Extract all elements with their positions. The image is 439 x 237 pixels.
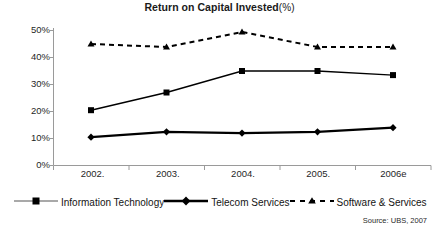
axis-lines: [54, 28, 432, 166]
x-axis-labels: 2002. 2003. 2004. 2005. 2006e: [55, 168, 431, 179]
x-axis-tick-label: 2005.: [281, 168, 356, 179]
legend-label: Software & Services: [337, 197, 427, 208]
x-axis-tick-label: 2004.: [205, 168, 280, 179]
legend-item-information-technology[interactable]: Information Technology: [14, 195, 164, 209]
x-axis-tick-label: 2003.: [130, 168, 205, 179]
legend-marker-square-icon: [14, 195, 58, 209]
plot-svg: [0, 20, 439, 175]
chart-title: Return on Capital Invested(%): [0, 1, 439, 13]
chart-legend: Information Technology Telecom Services …: [14, 195, 426, 209]
x-axis-tick-label: 2002.: [55, 168, 130, 179]
legend-marker-triangle-icon: [290, 195, 334, 209]
legend-item-telecom-services[interactable]: Telecom Services: [164, 195, 289, 209]
x-axis-tick-label: 2006e: [356, 168, 431, 179]
source-note: Source: UBS, 2007: [363, 216, 427, 225]
plot-area: [0, 20, 439, 175]
chart-title-text: Return on Capital Invested: [144, 1, 278, 13]
legend-label: Telecom Services: [211, 197, 289, 208]
series-telecom-services: [87, 124, 396, 141]
series-software-services: [88, 29, 397, 50]
y-axis-ticks: [49, 31, 54, 166]
legend-label: Information Technology: [61, 197, 164, 208]
chart-title-unit: (%): [279, 2, 295, 13]
legend-item-software-services[interactable]: Software & Services: [290, 195, 427, 209]
chart-container: Return on Capital Invested(%) 50% 40% 30…: [0, 0, 439, 237]
series-information-technology: [88, 68, 396, 113]
legend-marker-diamond-icon: [164, 195, 208, 209]
